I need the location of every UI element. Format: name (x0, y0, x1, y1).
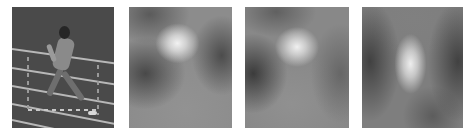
hurdle-marker (27, 57, 29, 112)
saliency-map-3 (362, 7, 463, 128)
runner-shoe (88, 111, 97, 115)
original-frame-panel (12, 7, 114, 128)
runner-head (59, 26, 70, 39)
hurdle-marker (97, 65, 99, 115)
saliency-map-2 (245, 7, 349, 128)
runner-body (51, 36, 75, 71)
saliency-map-1 (129, 7, 232, 128)
